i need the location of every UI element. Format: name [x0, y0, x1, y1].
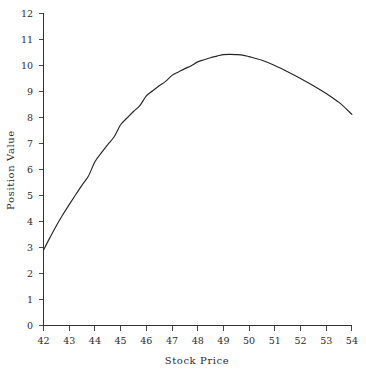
y-tick-label: 12: [21, 8, 33, 19]
x-tick-label: 54: [346, 335, 358, 346]
y-tick-label: 1: [27, 294, 33, 305]
y-tick-label: 9: [27, 86, 33, 97]
y-tick-label: 10: [21, 60, 33, 71]
x-tick-label: 50: [243, 335, 255, 346]
x-tick-label: 52: [294, 335, 306, 346]
position-value-line-chart: 0 1 2 3 4 5 6 7 8 9 10 11 12: [0, 0, 366, 372]
y-tick-label: 7: [27, 138, 33, 149]
x-tick-label: 42: [37, 335, 49, 346]
y-tick-label: 6: [27, 164, 33, 175]
x-tick-label: 45: [115, 335, 127, 346]
y-axis-ticks: [39, 14, 44, 326]
x-tick-label: 49: [217, 335, 229, 346]
position-value-curve: [44, 54, 352, 250]
x-axis-ticks: [44, 326, 352, 331]
x-axis-tick-labels: 42 43 44 45 46 47 48 49 50 51 52 53 54: [37, 335, 357, 346]
y-tick-label: 8: [27, 112, 33, 123]
y-tick-label: 5: [27, 190, 33, 201]
y-tick-label: 11: [21, 34, 33, 45]
y-tick-label: 0: [27, 320, 33, 331]
x-tick-label: 47: [166, 335, 178, 346]
x-tick-label: 46: [140, 335, 152, 346]
y-axis-tick-labels: 0 1 2 3 4 5 6 7 8 9 10 11 12: [21, 8, 33, 331]
x-tick-label: 44: [89, 335, 101, 346]
x-tick-label: 51: [269, 335, 281, 346]
y-tick-label: 3: [27, 242, 33, 253]
y-tick-label: 4: [27, 216, 33, 227]
x-tick-label: 43: [63, 335, 75, 346]
x-axis-title: Stock Price: [165, 355, 230, 366]
chart-figure: 0 1 2 3 4 5 6 7 8 9 10 11 12: [0, 0, 366, 372]
x-tick-label: 53: [320, 335, 332, 346]
y-tick-label: 2: [27, 268, 33, 279]
y-axis-title: Position Value: [5, 130, 16, 210]
x-tick-label: 48: [192, 335, 204, 346]
